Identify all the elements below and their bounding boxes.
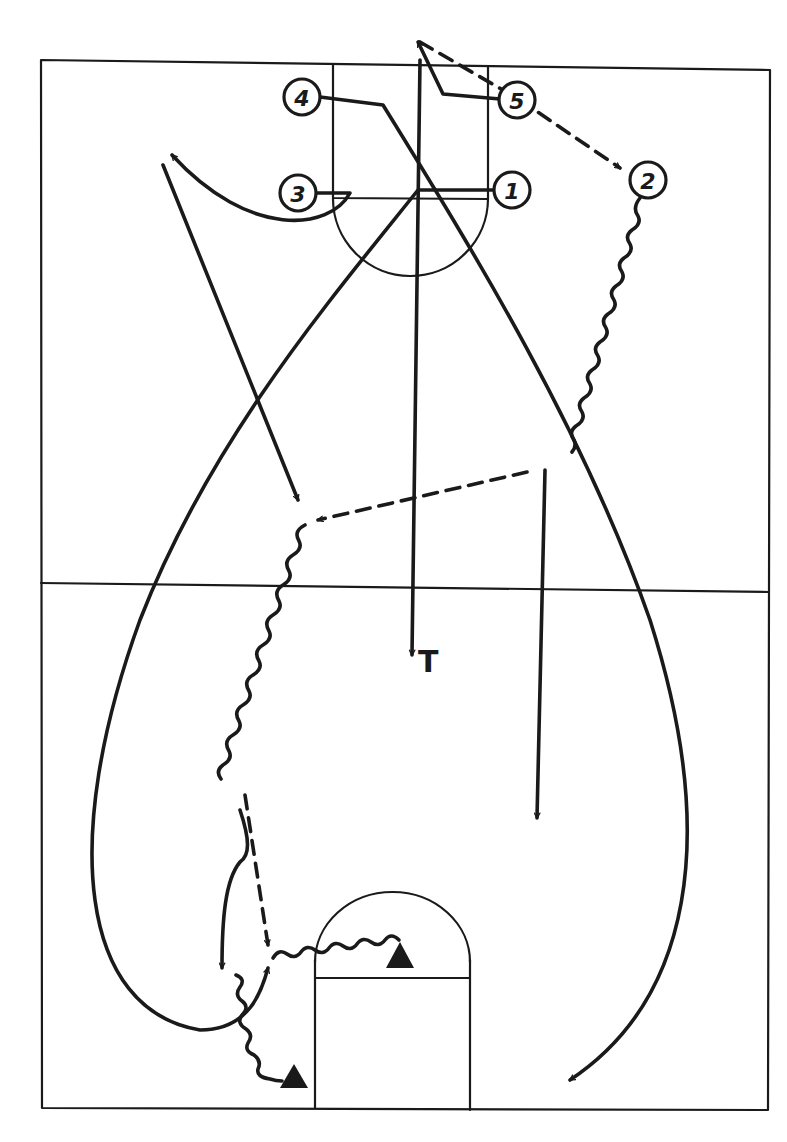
cut-to-corner bbox=[222, 810, 248, 968]
player-2-cut bbox=[537, 470, 545, 818]
player-5: 5 bbox=[499, 82, 535, 118]
player-2: 2 bbox=[630, 162, 666, 198]
svg-text:2: 2 bbox=[640, 169, 655, 194]
player-2-dribble bbox=[571, 198, 640, 452]
svg-text:5: 5 bbox=[509, 89, 524, 114]
player-3-cut bbox=[172, 155, 350, 220]
trailer-cut bbox=[412, 60, 420, 655]
mid-dribble-down bbox=[218, 525, 305, 779]
play-diagram: 1 2 3 4 5 T bbox=[0, 0, 787, 1142]
wing-cut-to-mid bbox=[163, 165, 298, 500]
pass-2-to-mid bbox=[318, 472, 527, 520]
player-1: 1 bbox=[494, 172, 530, 208]
top-free-throw-lane bbox=[333, 64, 488, 199]
cone-baseline-icon bbox=[280, 1064, 308, 1088]
trailer-label: T bbox=[418, 644, 439, 679]
player-4: 4 bbox=[284, 79, 320, 115]
svg-text:4: 4 bbox=[293, 86, 309, 111]
lane-dribble bbox=[273, 936, 399, 958]
dribble-paths bbox=[218, 198, 640, 1081]
bottom-free-throw-circle bbox=[315, 892, 470, 962]
svg-text:1: 1 bbox=[504, 179, 519, 204]
svg-text:3: 3 bbox=[290, 182, 305, 207]
pass-down-lane bbox=[245, 795, 268, 945]
cone-lane-icon bbox=[386, 942, 414, 968]
player-3: 3 bbox=[280, 175, 316, 211]
bottom-free-throw-lane bbox=[315, 960, 470, 1110]
